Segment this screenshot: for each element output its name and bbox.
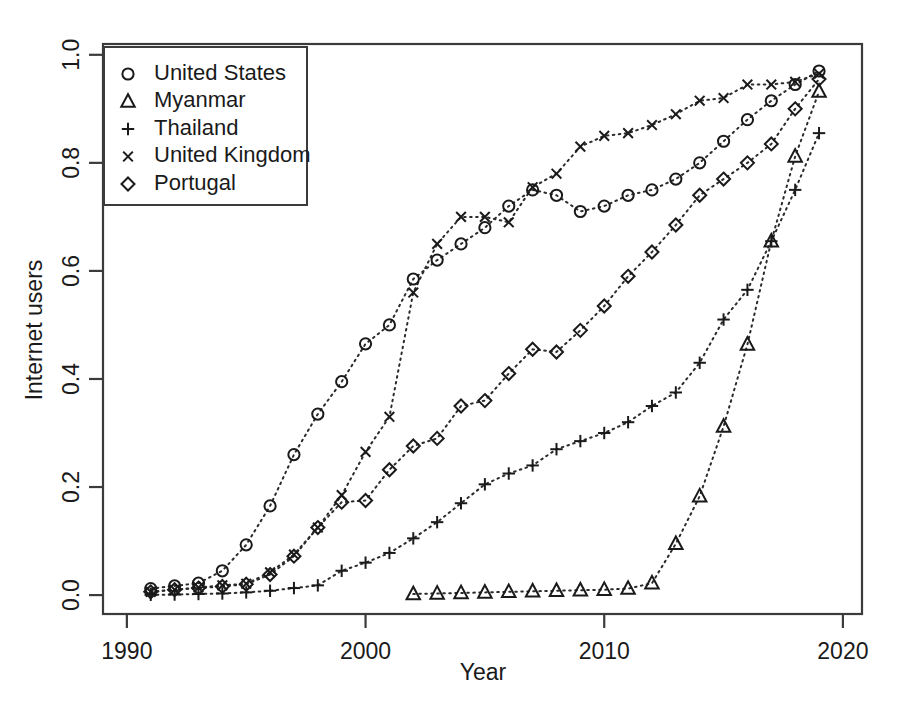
marker-plus [479,478,491,490]
y-tick-label-0.4: 0.4 [58,363,84,395]
marker-circle [694,157,705,168]
legend-label-myanmar: Myanmar [154,87,246,112]
marker-x [552,169,562,179]
legend-label-united-states: United States [154,60,286,85]
marker-plus [264,585,276,597]
y-tick-label-0.2: 0.2 [58,471,84,503]
marker-plus [407,532,419,544]
legend-label-portugal: Portugal [154,170,236,195]
y-tick-label-1.0: 1.0 [58,39,84,71]
marker-plus [574,435,586,447]
marker-plus [526,459,538,471]
x-tick-label-1990: 1990 [101,638,152,664]
marker-plus [622,416,634,428]
marker-triangle [788,149,801,162]
marker-triangle [407,587,420,600]
series-line-myanmar [413,92,819,594]
marker-plus [646,400,658,412]
marker-plus [383,547,395,559]
marker-x [671,109,681,119]
marker-plus [335,565,347,577]
chart-legend: United StatesMyanmarThailandUnited Kingd… [104,47,311,205]
marker-circle [217,565,228,576]
marker-x [766,80,776,90]
marker-plus [717,313,729,325]
marker-triangle [621,581,634,594]
marker-triangle [574,583,587,596]
marker-triangle [502,585,515,598]
marker-plus [288,582,300,594]
marker-x [576,142,586,152]
y-tick-label-0.8: 0.8 [58,147,84,179]
marker-circle [670,173,681,184]
marker-x [361,447,371,457]
marker-triangle [669,536,682,549]
scatter-plot-canvas: 1990200020102020 0.00.20.40.60.81.0 Year… [0,0,901,712]
x-tick-label-2020: 2020 [817,638,868,664]
marker-plus [693,357,705,369]
x-tick-label-2000: 2000 [340,638,391,664]
marker-plus [789,184,801,196]
legend-label-thailand: Thailand [154,115,238,140]
marker-triangle [430,586,443,599]
marker-plus [813,127,825,139]
marker-triangle [478,585,491,598]
marker-x [432,239,442,249]
y-axis-tick-labels: 0.00.20.40.60.81.0 [58,39,84,611]
marker-x [647,120,657,130]
marker-plus [312,579,324,591]
marker-plus [359,556,371,568]
marker-circle [384,319,395,330]
marker-plus [550,443,562,455]
legend-label-united-kingdom: United Kingdom [154,142,311,167]
marker-triangle [526,584,539,597]
x-axis-title: Year [460,659,507,685]
marker-diamond [693,189,706,202]
marker-triangle [693,489,706,502]
marker-plus [503,467,515,479]
x-tick-label-2010: 2010 [579,638,630,664]
y-tick-label-0.6: 0.6 [58,255,84,287]
marker-plus [455,497,467,509]
marker-triangle [454,586,467,599]
marker-circle [479,222,490,233]
marker-diamond [431,432,444,445]
chart-figure: 1990200020102020 0.00.20.40.60.81.0 Year… [0,0,901,712]
y-axis-ticks [89,55,103,595]
marker-plus [431,516,443,528]
marker-plus [598,427,610,439]
series-markers-myanmar [407,84,826,599]
marker-triangle [550,583,563,596]
marker-triangle [598,582,611,595]
y-axis-title: Internet users [21,260,47,401]
x-axis-ticks [127,614,843,628]
y-tick-label-0.0: 0.0 [58,579,84,611]
